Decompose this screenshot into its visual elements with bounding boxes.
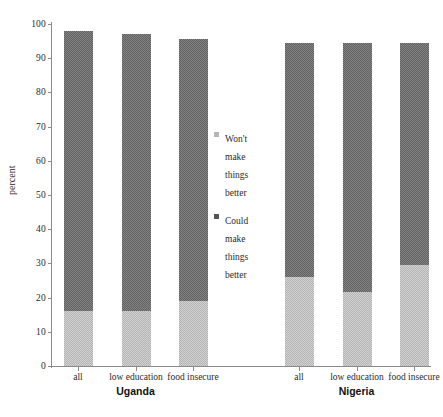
y-tick-label: 80 — [36, 87, 46, 97]
x-axis-label: all — [73, 372, 83, 382]
y-tick-label: 0 — [41, 361, 46, 371]
x-axis-label: low education — [330, 372, 384, 382]
bar — [400, 43, 429, 366]
square-marker-icon — [214, 214, 219, 219]
y-tick-label: 90 — [36, 53, 46, 63]
bar-segment-wont-make-things-better — [400, 265, 429, 366]
bar-segment-wont-make-things-better — [122, 311, 151, 366]
x-tick — [193, 367, 194, 371]
x-axis-label: food insecure — [388, 372, 439, 382]
tick-mark — [48, 58, 52, 59]
x-tick — [414, 367, 415, 371]
stacked-bar-chart: percent 0102030405060708090100 alllow ed… — [0, 0, 443, 417]
bar — [285, 43, 314, 366]
y-tick-label: 50 — [36, 190, 46, 200]
tick-mark — [48, 161, 52, 162]
legend-label: Could make things better — [225, 216, 248, 280]
y-tick-label: 20 — [36, 293, 46, 303]
tick-mark — [48, 298, 52, 299]
bar — [343, 43, 372, 366]
x-tick — [357, 367, 358, 371]
x-axis-line — [51, 366, 431, 367]
bar-segment-wont-make-things-better — [179, 301, 208, 366]
chart-legend: Won't make things better Could make thin… — [214, 128, 276, 292]
bar-segment-wont-make-things-better — [285, 277, 314, 366]
bar-segment-could-make-things-better — [285, 43, 314, 277]
tick-mark — [48, 263, 52, 264]
y-axis-title: percent — [6, 166, 17, 195]
group-label: Nigeria — [339, 385, 375, 397]
bar-segment-wont-make-things-better — [343, 292, 372, 366]
bar — [122, 34, 151, 366]
tick-mark — [48, 127, 52, 128]
x-tick — [78, 367, 79, 371]
legend-item: Won't make things better — [214, 128, 276, 200]
tick-mark — [48, 332, 52, 333]
y-tick-label: 70 — [36, 122, 46, 132]
bar-segment-wont-make-things-better — [64, 311, 93, 366]
y-tick-label: 40 — [36, 224, 46, 234]
bar-segment-could-make-things-better — [122, 34, 151, 311]
bar — [64, 31, 93, 366]
legend-label: Won't make things better — [225, 134, 248, 198]
tick-mark — [48, 366, 52, 367]
y-tick-label: 10 — [36, 327, 46, 337]
tick-mark — [48, 195, 52, 196]
legend-item: Could make things better — [214, 210, 276, 282]
y-tick-label: 100 — [31, 19, 46, 29]
square-marker-icon — [214, 132, 219, 137]
bar — [179, 39, 208, 366]
tick-mark — [48, 24, 52, 25]
bar-segment-could-make-things-better — [64, 31, 93, 311]
x-axis-label: low education — [109, 372, 163, 382]
bar-segment-could-make-things-better — [179, 39, 208, 301]
y-tick-label: 60 — [36, 156, 46, 166]
y-tick-label: 30 — [36, 258, 46, 268]
x-axis-label: all — [294, 372, 304, 382]
tick-mark — [48, 229, 52, 230]
bar-segment-could-make-things-better — [400, 43, 429, 265]
x-tick — [136, 367, 137, 371]
x-tick — [299, 367, 300, 371]
bar-segment-could-make-things-better — [343, 43, 372, 293]
group-label: Uganda — [116, 385, 155, 397]
tick-mark — [48, 92, 52, 93]
x-axis-label: food insecure — [167, 372, 218, 382]
